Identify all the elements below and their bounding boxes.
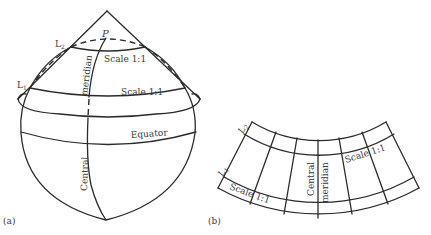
equator-label: Equator: [130, 127, 168, 140]
meridian-line-4: [339, 138, 352, 214]
sphere-outline: [21, 88, 196, 220]
l2-label: L2: [55, 39, 65, 50]
conic-projection-figure: P L2 L1 Scale 1:1 Scale 1:1 Equator meri…: [0, 0, 431, 235]
central-meridian-lower: [87, 118, 106, 220]
sector-right-edge: [386, 122, 419, 188]
l2-label-b: L2: [235, 121, 250, 136]
l2-parallel-back: [71, 39, 145, 47]
meridian-line-2: [284, 138, 297, 214]
central-label-b: Central: [306, 162, 316, 196]
panel-a-caption: (a): [3, 216, 15, 226]
panel-b-caption: (b): [208, 216, 221, 226]
equator-line: [21, 132, 196, 145]
scale-upper-label: Scale 1:1: [104, 54, 146, 64]
scale-lower-label: Scale 1:1: [121, 87, 163, 97]
central-label: Central: [79, 156, 90, 191]
scale-right-label: Scale 1:1: [344, 142, 387, 165]
cone-left-side: [18, 11, 107, 99]
outer-top-arc: [252, 122, 386, 141]
panel-b-developed-cone: L2 L1 Scale 1:1 Scale 1:1 Central meridi…: [208, 121, 419, 226]
cone-base-front: [18, 99, 200, 117]
meridian-line-5: [362, 132, 388, 204]
apex-point-label: P: [101, 28, 109, 39]
l2-parallel-front: [71, 47, 145, 51]
central-meridian-hidden: [88, 99, 89, 117]
l1-label: L1: [17, 80, 27, 91]
panel-a-sphere-and-cone: P L2 L1 Scale 1:1 Scale 1:1 Equator meri…: [3, 11, 200, 226]
l1-label-b: L1: [215, 165, 230, 180]
meridian-label-b: meridian: [320, 162, 330, 203]
